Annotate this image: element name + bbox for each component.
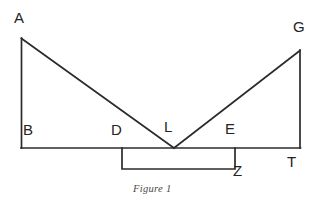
vertex-label-b: B <box>23 122 33 137</box>
vertex-label-g: G <box>293 19 305 34</box>
figure-caption: Figure 1 <box>133 184 171 195</box>
vertex-label-z: Z <box>233 163 242 178</box>
vertex-label-d: D <box>111 122 122 137</box>
vertex-label-e: E <box>225 121 235 136</box>
vertex-label-l: L <box>164 119 172 134</box>
figure-drawing <box>0 0 317 204</box>
vertex-label-a: A <box>14 10 24 25</box>
segment-LG <box>174 51 300 149</box>
vertex-label-t: T <box>287 154 296 169</box>
segment-AL <box>22 39 175 149</box>
bracket-DZE <box>122 148 235 169</box>
geometry-figure: A G B D L E T Z Figure 1 <box>0 0 317 204</box>
